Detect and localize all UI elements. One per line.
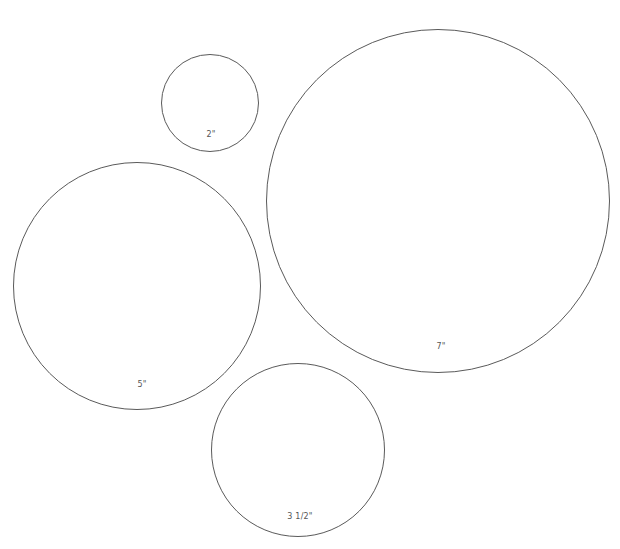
circle-7-inch-label: 7" <box>436 342 445 351</box>
circle-5-inch <box>13 162 261 410</box>
circle-2-inch-label: 2" <box>206 130 215 139</box>
circle-5-inch-label: 5" <box>137 380 146 389</box>
circle-7-inch <box>266 29 610 373</box>
circle-3-5-inch-label: 3 1/2" <box>287 512 312 521</box>
circle-template-sheet: 2" 5" 7" 3 1/2" <box>0 0 620 549</box>
